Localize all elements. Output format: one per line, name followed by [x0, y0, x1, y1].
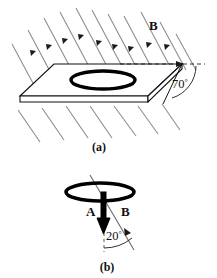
field-line [66, 106, 88, 138]
panel-a: B 70° (a) [12, 8, 205, 154]
field-arrowhead [96, 40, 102, 46]
field-line [138, 106, 158, 134]
field-arrowhead [128, 46, 134, 52]
plate-front-edge [20, 96, 148, 102]
field-label-b-panel-a: B [149, 18, 158, 33]
field-arrowhead [78, 34, 84, 40]
physics-figure: B 70° (a) [0, 0, 217, 278]
field-arrowhead [46, 44, 52, 50]
magnetic-field-lines-lower [18, 104, 180, 142]
panel-b: A B 20° (b) [66, 175, 134, 274]
angle-label-20: 20° [106, 229, 122, 243]
field-arrowhead [164, 44, 170, 50]
field-line [90, 106, 112, 138]
field-arrowhead [62, 38, 68, 44]
caption-panel-a: (a) [92, 140, 106, 154]
field-arrowhead [146, 42, 152, 48]
normal-vector-arrow-a [97, 192, 110, 234]
field-arrowhead [30, 50, 36, 56]
field-line [114, 106, 136, 136]
field-line [18, 110, 40, 142]
figure-canvas: B 70° (a) [0, 0, 217, 278]
field-b-arrowhead [124, 228, 131, 236]
angle-label-70: 70° [172, 77, 188, 91]
field-line [162, 104, 180, 130]
caption-panel-b: (b) [100, 260, 115, 274]
field-label-b-panel-b: B [121, 204, 130, 219]
field-arrowhead [112, 44, 118, 50]
field-line [76, 8, 110, 72]
field-line [42, 108, 64, 140]
normal-label-a: A [86, 204, 96, 219]
